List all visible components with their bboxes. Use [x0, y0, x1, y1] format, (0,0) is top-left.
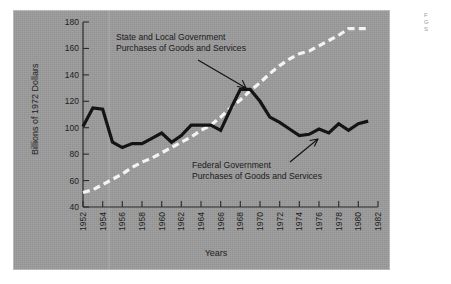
x-axis-ticks — [83, 201, 378, 207]
annotation-federal-line2: Purchases of Goods and Services — [192, 171, 322, 181]
y-tick-label: 140 — [65, 70, 79, 80]
x-tick-label: 1976 — [314, 212, 324, 231]
x-tick-label: 1964 — [196, 212, 206, 231]
y-tick-label: 60 — [70, 176, 80, 186]
y-tick-label: 100 — [65, 123, 79, 133]
x-tick-label: 1968 — [235, 212, 245, 231]
annotation-federal-line1: Federal Government — [192, 160, 271, 170]
y-axis: 180 160 140 120 100 80 60 40 — [65, 17, 89, 212]
figure-container: 180 160 140 120 100 80 60 40 — [0, 0, 451, 284]
x-tick-label: 1978 — [334, 212, 344, 231]
annotation-state-local: State and Local Government Purchases of … — [116, 32, 246, 88]
y-tick-label: 80 — [70, 149, 80, 159]
annotation-state-local-arrow — [198, 60, 246, 88]
x-tick-labels: 1952 1954 1956 1958 1960 1962 1964 1966 … — [78, 212, 383, 231]
y-tick-label: 40 — [70, 202, 80, 212]
annotation-state-local-line2: Purchases of Goods and Services — [116, 43, 246, 53]
x-tick-label: 1980 — [353, 212, 363, 231]
x-tick-label: 1972 — [275, 212, 285, 231]
y-tick-label: 120 — [65, 96, 79, 106]
y-axis-title: Billions of 1972 Dollars — [30, 63, 40, 155]
annotation-federal: Federal Government Purchases of Goods an… — [192, 139, 322, 181]
x-tick-label: 1956 — [117, 212, 127, 231]
x-tick-label: 1954 — [98, 212, 108, 231]
y-tick-label: 180 — [65, 17, 79, 27]
x-tick-label: 1962 — [176, 212, 186, 231]
y-tick-label: 160 — [65, 43, 79, 53]
x-axis: 1952 1954 1956 1958 1960 1962 1964 1966 … — [78, 201, 383, 231]
side-caption-line2: G — [424, 19, 451, 26]
annotation-state-local-line1: State and Local Government — [116, 32, 226, 42]
line-chart: 180 160 140 120 100 80 60 40 — [0, 0, 451, 284]
annotation-federal-arrow — [290, 139, 318, 162]
x-tick-label: 1970 — [255, 212, 265, 231]
x-tick-label: 1966 — [216, 212, 226, 231]
x-tick-label: 1958 — [137, 212, 147, 231]
federal-series — [83, 89, 368, 147]
x-tick-label: 1982 — [373, 212, 383, 231]
side-caption-line3: S — [424, 26, 451, 33]
x-tick-label: 1974 — [294, 212, 304, 231]
x-axis-title: Years — [205, 248, 228, 258]
x-tick-label: 1960 — [157, 212, 167, 231]
x-tick-label: 1952 — [78, 212, 88, 231]
side-caption: F G S — [424, 12, 451, 34]
side-caption-line1: F — [424, 12, 451, 19]
